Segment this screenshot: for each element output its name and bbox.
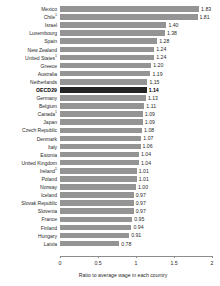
bar-row-label: Israel <box>0 22 60 28</box>
bar-row: Slovenia0.97 <box>0 207 220 215</box>
bar-row: Czech Republic1.08 <box>0 126 220 134</box>
bar-track: 1.01 <box>60 175 220 183</box>
bar <box>60 71 150 77</box>
bar-row: OECD291.14 <box>0 86 220 94</box>
bar-track: 1.28 <box>60 37 220 45</box>
bar-value-label: 1.15 <box>147 79 159 85</box>
bar-track: 0.97 <box>60 207 220 215</box>
bar-value-label: 1.19 <box>150 71 162 77</box>
bar-track: 0.97 <box>60 199 220 207</box>
bar <box>60 14 198 20</box>
bar-track: 1.20 <box>60 62 220 70</box>
bar <box>60 241 119 247</box>
bar <box>60 168 137 174</box>
bar <box>60 184 136 190</box>
bar-row-label: Slovak Republic <box>0 200 60 206</box>
bar-row: Slovak Republic0.97 <box>0 199 220 207</box>
bar-row-label: Mexico <box>0 6 60 12</box>
bar-track: 1.19 <box>60 70 220 78</box>
bar-row: Denmark1.07 <box>0 135 220 143</box>
bar-track: 1.00 <box>60 183 220 191</box>
x-axis-tick <box>212 256 213 258</box>
chart-rows: Mexico1.83Chile11.81Israel1.40Luxembourg… <box>0 5 220 248</box>
bar <box>60 160 139 166</box>
footnote-marker: 1 <box>55 54 57 58</box>
bar-track: 1.04 <box>60 151 220 159</box>
bar-row-label: Italy <box>0 144 60 150</box>
bar-row-label: Chile1 <box>0 14 60 20</box>
bar-value-label: 0.95 <box>132 216 144 222</box>
bar-row-label: Czech Republic <box>0 127 60 133</box>
bar-value-label: 0.91 <box>129 232 141 238</box>
bar-value-label: 1.83 <box>199 6 211 12</box>
bar-row: Ireland11.01 <box>0 167 220 175</box>
bar-value-label: 0.94 <box>131 224 143 230</box>
bar <box>60 47 154 53</box>
bar-row-label: OECD29 <box>0 87 60 93</box>
bar-track: 0.95 <box>60 215 220 223</box>
bar-row: Belgium1.11 <box>0 102 220 110</box>
bar-value-label: 1.14 <box>147 87 159 93</box>
bar-row-label: Norway <box>0 184 60 190</box>
bar-value-label: 1.11 <box>144 103 156 109</box>
bar-value-label: 1.38 <box>165 30 177 36</box>
bar <box>60 128 142 134</box>
bar-row: Luxembourg1.38 <box>0 29 220 37</box>
bar-track: 1.04 <box>60 159 220 167</box>
bar <box>60 144 141 150</box>
bar <box>60 152 139 158</box>
bar-track: 1.24 <box>60 45 220 53</box>
x-axis-tick-label: 1.5 <box>170 260 177 266</box>
footnote-marker: 1 <box>55 111 57 115</box>
bar <box>60 6 199 12</box>
bar-row-label: Ireland1 <box>0 168 60 174</box>
bar-row-label: Germany <box>0 95 60 101</box>
footnote-marker: 1 <box>55 167 57 171</box>
bar-track: 0.91 <box>60 232 220 240</box>
bar-row: United Kingdom1.04 <box>0 159 220 167</box>
bar <box>60 119 143 125</box>
bar-track: 1.14 <box>60 86 220 94</box>
bar-track: 1.38 <box>60 29 220 37</box>
x-axis-title: Ratio to average wage in each country <box>0 272 220 279</box>
bar-row: Canada11.09 <box>0 110 220 118</box>
x-axis-tick <box>174 256 175 258</box>
bar-track: 1.13 <box>60 94 220 102</box>
x-axis-tick-label: 2 <box>211 260 214 266</box>
bar <box>60 208 134 214</box>
bar-track: 1.01 <box>60 167 220 175</box>
x-axis-tick <box>136 256 137 258</box>
bar-row: United States11.24 <box>0 54 220 62</box>
bar-row-label: Denmark <box>0 136 60 142</box>
bar-row: Germany1.13 <box>0 94 220 102</box>
bar-row: New Zealand1.24 <box>0 45 220 53</box>
bar <box>60 55 154 61</box>
bar-row-label: New Zealand <box>0 47 60 53</box>
bar-row: France0.95 <box>0 215 220 223</box>
bar <box>60 176 137 182</box>
bar-value-label: 1.01 <box>137 168 149 174</box>
bar-row: Italy1.06 <box>0 143 220 151</box>
bar-row: Netherlands1.15 <box>0 78 220 86</box>
bar <box>60 217 132 223</box>
bar-track: 1.81 <box>60 13 220 21</box>
x-axis-tick-label: 1 <box>135 260 138 266</box>
x-axis-tick-label: 0 <box>59 260 62 266</box>
bar <box>60 79 147 85</box>
bar <box>60 225 131 231</box>
bar-value-label: 1.06 <box>141 143 153 149</box>
bar-value-label: 1.81 <box>198 14 210 20</box>
bar-row-label: Latvia <box>0 241 60 247</box>
x-axis-tick <box>98 256 99 258</box>
bar-value-label: 1.04 <box>139 151 151 157</box>
bar-value-label: 0.97 <box>134 208 146 214</box>
bar-value-label: 1.08 <box>142 127 154 133</box>
bar-row: Israel1.40 <box>0 21 220 29</box>
bar-row-label: United Kingdom <box>0 160 60 166</box>
bar-row: Poland1.01 <box>0 175 220 183</box>
bar-row-label: Belgium <box>0 103 60 109</box>
bar-track: 1.83 <box>60 5 220 13</box>
bar-value-label: 1.04 <box>139 160 151 166</box>
bar-row-label: Spain <box>0 38 60 44</box>
bar-row-label: Estonia <box>0 152 60 158</box>
